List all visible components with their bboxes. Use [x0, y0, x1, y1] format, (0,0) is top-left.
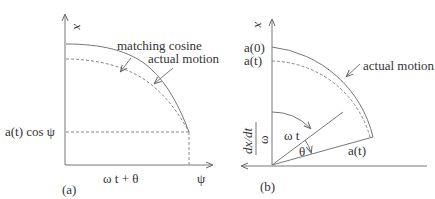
angle-arc-omega-t — [272, 112, 310, 128]
fraction-numerator: dx/dt — [240, 128, 255, 154]
fraction-denominator: ω — [256, 135, 271, 144]
angle-label-omega-t: ω t — [284, 128, 300, 143]
panel-tag-b: (b) — [260, 179, 275, 194]
callout-arrow-actual-b — [347, 64, 360, 76]
y-axis-label-b: x — [252, 21, 267, 28]
y-axis-label-a: x — [71, 23, 86, 30]
angle-arc-theta — [305, 140, 311, 152]
matching-arc-b — [272, 61, 370, 137]
panel-tag-a: (a) — [62, 182, 76, 197]
callout-actual-motion-a: actual motion — [148, 51, 220, 66]
dxdt-over-omega-label: dx/dt ω — [240, 122, 271, 155]
panel-a: x matching cosine actual motion a(t) cos… — [5, 15, 220, 197]
radius-label-at: a(t) — [348, 143, 366, 158]
top-label-at: a(t) — [244, 53, 262, 68]
panel-b: x a(0) a(t) actual motion ω t θ a(t) dx/… — [240, 20, 435, 194]
x-axis-label-a: ψ — [197, 171, 205, 186]
callout-actual-motion-b: actual motion — [363, 58, 435, 73]
radius-line-omega-t — [272, 112, 343, 165]
y-mark-label-a: a(t) cos ψ — [5, 124, 55, 139]
diagram-canvas: x matching cosine actual motion a(t) cos… — [0, 0, 435, 199]
angle-label-theta: θ — [299, 144, 305, 159]
actual-motion-arc-b — [272, 47, 373, 137]
callout-arrow-cosine — [121, 58, 131, 71]
x-mid-label-a: ω t + θ — [103, 171, 138, 186]
